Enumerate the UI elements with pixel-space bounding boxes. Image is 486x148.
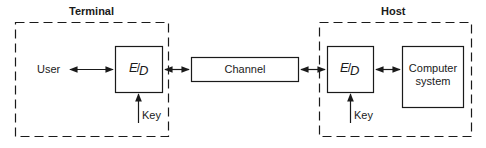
terminal-ed-decrypt: D bbox=[139, 63, 148, 78]
computer-system-line1: Computer bbox=[402, 63, 464, 74]
host-ed-label: E/D bbox=[340, 61, 359, 77]
user-label: User bbox=[37, 64, 60, 75]
host-ed-decrypt: D bbox=[350, 63, 359, 78]
host-key-label: Key bbox=[354, 110, 373, 121]
channel-label: Channel bbox=[191, 64, 299, 75]
host-title: Host bbox=[381, 6, 405, 17]
terminal-key-label: Key bbox=[142, 110, 161, 121]
computer-system-line2: system bbox=[402, 76, 464, 87]
terminal-title: Terminal bbox=[69, 6, 114, 17]
terminal-ed-label: E/D bbox=[129, 61, 148, 77]
